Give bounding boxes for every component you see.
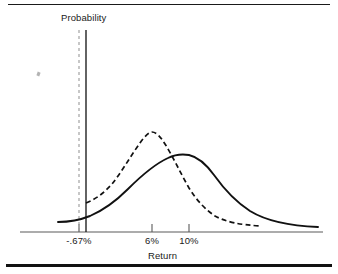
- solid-distribution-curve: [58, 154, 318, 227]
- y-axis-title: Probability: [61, 12, 106, 23]
- distribution-plot: [0, 0, 338, 274]
- bottom-divider-rule: [6, 264, 332, 267]
- dashed-distribution-curve: [86, 132, 262, 226]
- chart-figure: Probability Return -.67% 6% 10%: [0, 0, 338, 274]
- x-tick-label-negative-067: -.67%: [66, 235, 91, 246]
- x-tick-label-6-percent: 6%: [145, 235, 159, 246]
- x-axis-title: Return: [148, 250, 177, 261]
- x-tick-label-10-percent: 10%: [179, 235, 198, 246]
